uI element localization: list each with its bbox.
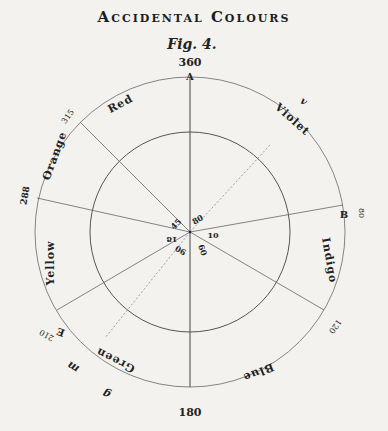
center-10: 10 <box>207 230 219 240</box>
colour-green: Green <box>94 345 137 376</box>
label-180: 180 <box>179 406 202 419</box>
colour-blue: Blue <box>241 360 276 384</box>
point-v: v <box>298 95 309 107</box>
label-80: 80 <box>357 208 366 218</box>
point-g: g <box>101 387 113 402</box>
point-b: B <box>340 209 348 220</box>
center-18: 18 <box>166 235 178 245</box>
point-a: A <box>185 71 194 82</box>
label-120: 120 <box>327 318 343 336</box>
point-e: E <box>55 326 66 339</box>
label-210: 210 <box>38 327 56 342</box>
radius-288 <box>37 198 190 232</box>
center-80: 80 <box>190 212 205 226</box>
label-315: 315 <box>60 108 76 126</box>
colour-yellow: Yellow <box>44 240 57 286</box>
colour-violet: Violet <box>272 100 313 139</box>
center-60: 60 <box>196 243 209 257</box>
radius-120 <box>190 232 324 310</box>
center-point <box>189 231 191 233</box>
radius-315 <box>80 122 190 232</box>
radius-80 <box>190 205 343 232</box>
colour-indigo: Indigo <box>319 237 340 285</box>
colour-red: Red <box>105 92 135 116</box>
label-360: 360 <box>179 56 202 69</box>
center-45: 45 <box>168 216 183 231</box>
colour-wheel-diagram: 360 180 315 288 80 120 210 A B E v m g R… <box>0 0 388 431</box>
label-288: 288 <box>18 185 31 205</box>
colour-orange: Orange <box>40 130 70 183</box>
point-m: m <box>65 358 82 375</box>
